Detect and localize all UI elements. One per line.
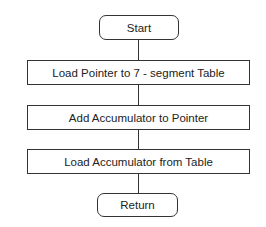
return-terminal: Return <box>97 193 178 217</box>
connector-start-step1 <box>138 40 139 60</box>
connector-step3-return <box>138 174 139 193</box>
process-load-pointer: Load Pointer to 7 - segment Table <box>27 60 250 85</box>
connector-step1-step2 <box>138 85 139 105</box>
process-add-accumulator-label: Add Accumulator to Pointer <box>69 112 208 124</box>
process-load-accumulator-label: Load Accumulator from Table <box>64 156 213 168</box>
process-load-pointer-label: Load Pointer to 7 - segment Table <box>52 67 224 79</box>
connector-step2-step3 <box>138 130 139 149</box>
start-label: Start <box>127 22 151 34</box>
start-terminal: Start <box>99 15 179 40</box>
process-add-accumulator: Add Accumulator to Pointer <box>27 105 250 130</box>
process-load-accumulator: Load Accumulator from Table <box>27 149 250 174</box>
return-label: Return <box>120 199 155 211</box>
